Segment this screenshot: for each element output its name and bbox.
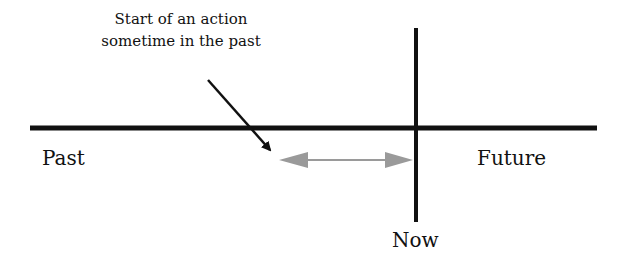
future-label: Future xyxy=(477,146,546,170)
annotation-text: Start of an action sometime in the past xyxy=(76,8,286,52)
annotation-line-2: sometime in the past xyxy=(76,30,286,52)
pointer-arrow xyxy=(208,80,270,150)
now-label: Now xyxy=(392,228,439,252)
past-label: Past xyxy=(42,146,85,170)
duration-double-arrow xyxy=(279,152,413,168)
annotation-line-1: Start of an action xyxy=(76,8,286,30)
